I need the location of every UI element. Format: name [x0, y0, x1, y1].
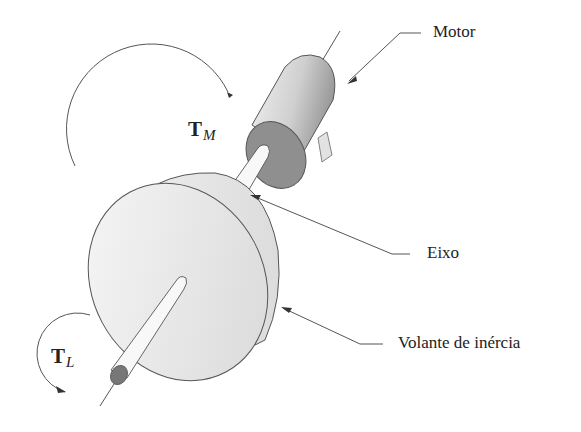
- leader-flywheel: [283, 308, 383, 344]
- torque-symbol: T: [51, 344, 65, 368]
- torque-symbol: T: [188, 117, 202, 141]
- axis-line-top: [322, 31, 340, 61]
- torque-arc-motor: [67, 44, 228, 166]
- motor-mount-tab: [318, 132, 332, 162]
- label-flywheel: Volante de inércia: [398, 333, 520, 353]
- label-motor: Motor: [433, 22, 476, 42]
- diagram-canvas: Motor Eixo Volante de inércia TM TL: [0, 0, 581, 432]
- leader-motor: [349, 33, 421, 81]
- torque-subscript: M: [203, 127, 216, 143]
- motor-flywheel-drawing: [0, 0, 581, 432]
- label-shaft: Eixo: [427, 243, 459, 263]
- axis-line-bottom: [100, 384, 114, 406]
- torque-label-motor: TM: [188, 117, 216, 142]
- torque-subscript: L: [66, 354, 74, 370]
- torque-label-load: TL: [51, 344, 74, 369]
